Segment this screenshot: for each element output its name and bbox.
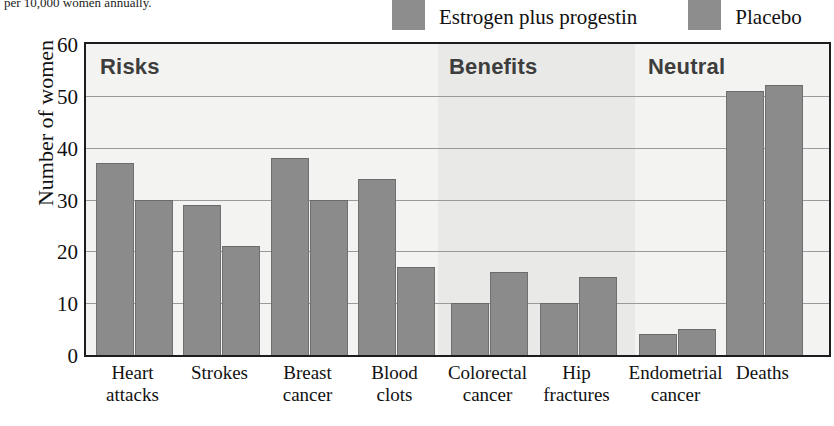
- x-axis-tick-label: Deaths: [703, 362, 823, 384]
- bar: [310, 200, 348, 356]
- y-axis-tick-label: 50: [4, 85, 78, 110]
- bar: [540, 303, 578, 355]
- legend-label-estrogen-plus-progestin: Estrogen plus progestin: [439, 5, 637, 30]
- legend-swatch-icon: [392, 0, 425, 30]
- bar: [222, 246, 260, 355]
- bar: [678, 329, 716, 355]
- gridline: [86, 96, 829, 97]
- section-label-risks: Risks: [100, 54, 160, 80]
- x-axis-tick-label-line: attacks: [73, 384, 193, 406]
- y-axis-tick-label: 10: [4, 292, 78, 317]
- gridline: [86, 200, 829, 201]
- bar: [271, 158, 309, 355]
- bar: [451, 303, 489, 355]
- bar: [96, 163, 134, 355]
- bar: [397, 267, 435, 355]
- x-axis-tick-label-line: cancer: [616, 384, 736, 406]
- chart-legend: Estrogen plus progestin Placebo: [392, 0, 802, 34]
- y-axis-tick-label: 40: [4, 137, 78, 162]
- section-label-neutral: Neutral: [648, 54, 725, 80]
- plot-area: Risks Benefits Neutral: [84, 42, 831, 357]
- y-axis-tick-label: 20: [4, 240, 78, 265]
- y-axis-tick-labels: 0102030405060: [0, 42, 78, 357]
- y-axis-tick-label: 0: [4, 344, 78, 369]
- x-axis-tick-labels: HeartattacksStrokesBreastcancerBloodclot…: [84, 362, 831, 422]
- x-axis-tick-label-line: Deaths: [703, 362, 823, 384]
- legend-label-placebo: Placebo: [735, 5, 801, 30]
- bar: [579, 277, 617, 355]
- gridline: [86, 148, 829, 149]
- legend-item-estrogen-plus-progestin[interactable]: Estrogen plus progestin: [392, 4, 637, 30]
- bar: [726, 91, 764, 355]
- bar: [490, 272, 528, 355]
- caption-text: per 10,000 women annually.: [4, 0, 152, 11]
- y-axis-tick-label: 30: [4, 189, 78, 214]
- bar: [358, 179, 396, 355]
- section-label-benefits: Benefits: [449, 54, 537, 80]
- bar: [135, 200, 173, 356]
- bar: [639, 334, 677, 355]
- y-axis-tick-label: 60: [4, 33, 78, 58]
- bar: [765, 85, 803, 355]
- legend-item-placebo[interactable]: Placebo: [688, 4, 801, 30]
- bar: [183, 205, 221, 355]
- legend-swatch-icon: [688, 0, 721, 30]
